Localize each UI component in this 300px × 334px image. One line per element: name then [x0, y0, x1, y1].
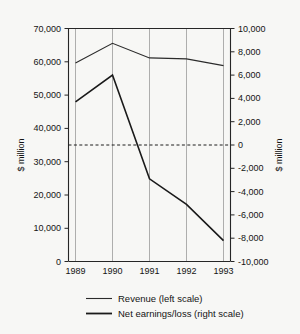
tick-label-right-6000: 6,000 — [238, 70, 261, 80]
left-axis-tick-labels: 70,000 60,000 50,000 40,000 30,000 20,00… — [33, 24, 61, 267]
left-axis-ticks — [65, 29, 69, 262]
tick-label-x-1990: 1990 — [102, 266, 122, 276]
tick-label-right-8000: 8,000 — [238, 47, 261, 57]
right-axis-tick-labels: 10,000 8,000 6,000 4,000 2,000 0 -2,000 … — [238, 24, 269, 267]
tick-label-left-50000: 50,000 — [33, 90, 61, 100]
tick-label-right-minus4000: -4,000 — [238, 187, 264, 197]
tick-label-left-10000: 10,000 — [33, 223, 61, 233]
chart-canvas: 70,000 60,000 50,000 40,000 30,000 20,00… — [0, 0, 300, 334]
legend-label-revenue: Revenue (left scale) — [118, 293, 202, 304]
tick-label-right-0: 0 — [238, 140, 243, 150]
tick-label-left-20000: 20,000 — [33, 190, 61, 200]
tick-label-left-0: 0 — [56, 257, 61, 267]
tick-label-x-1992: 1992 — [176, 266, 196, 276]
legend-label-net-earnings: Net earnings/loss (right scale) — [118, 308, 244, 319]
tick-label-left-40000: 40,000 — [33, 123, 61, 133]
y-axis-left-title: $ million — [16, 138, 26, 171]
chart-figure: 70,000 60,000 50,000 40,000 30,000 20,00… — [0, 0, 300, 334]
tick-label-left-60000: 60,000 — [33, 57, 61, 67]
tick-label-right-minus6000: -6,000 — [238, 210, 264, 220]
tick-label-right-2000: 2,000 — [238, 117, 261, 127]
tick-label-x-1991: 1991 — [139, 266, 159, 276]
tick-label-right-4000: 4,000 — [238, 93, 261, 103]
tick-label-x-1989: 1989 — [65, 266, 85, 276]
tick-label-left-30000: 30,000 — [33, 157, 61, 167]
chart-legend: Revenue (left scale) Net earnings/loss (… — [86, 293, 244, 319]
x-axis-tick-labels: 1989 1990 1991 1992 1993 — [65, 266, 233, 276]
tick-label-x-1993: 1993 — [213, 266, 233, 276]
tick-label-right-minus10000: -10,000 — [238, 257, 269, 267]
tick-label-right-minus8000: -8,000 — [238, 233, 264, 243]
tick-label-right-10000: 10,000 — [238, 24, 266, 34]
y-axis-right-title: $ million — [274, 138, 284, 171]
tick-label-right-minus2000: -2,000 — [238, 163, 264, 173]
right-axis-ticks — [231, 29, 235, 262]
tick-label-left-70000: 70,000 — [33, 24, 61, 34]
